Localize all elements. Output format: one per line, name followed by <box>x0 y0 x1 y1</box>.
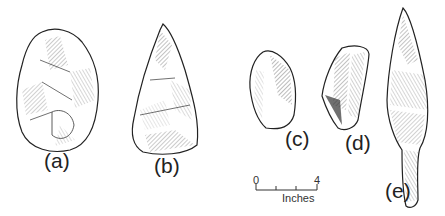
scale-end: 4 <box>314 175 320 186</box>
label-a: (a) <box>44 150 70 171</box>
artifact-b <box>132 24 197 154</box>
label-d: (d) <box>345 132 371 153</box>
artifact-c <box>250 51 296 129</box>
scale-start: 0 <box>253 175 259 186</box>
scale-unit: Inches <box>282 193 314 204</box>
label-b: (b) <box>154 155 180 176</box>
label-c: (c) <box>285 128 310 149</box>
artifact-drawings <box>0 0 445 216</box>
artifact-e <box>387 8 428 207</box>
artifact-a <box>17 29 99 151</box>
label-e: (e) <box>385 180 411 201</box>
artifact-d <box>322 46 369 130</box>
scale-bar <box>256 184 317 190</box>
stone-tools-illustration: (a) (b) (c) (d) (e) 0 4 Inches <box>0 0 445 216</box>
